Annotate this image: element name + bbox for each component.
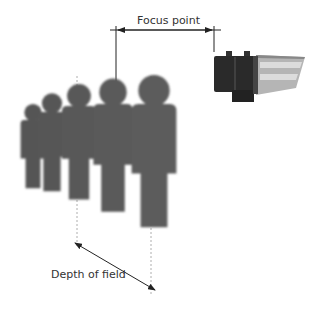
depth-of-field-arrow (75, 243, 155, 290)
person-silhouette-icon (93, 79, 132, 212)
depth-of-field-diagram: Focus point Depth of field (0, 0, 318, 311)
person-silhouette-icon (62, 84, 96, 200)
person-silhouette-icon (132, 75, 177, 227)
diagram-canvas (0, 0, 318, 311)
depth-of-field-label: Depth of field (51, 268, 126, 281)
people-group (21, 75, 177, 227)
focus-point-label: Focus point (137, 14, 200, 27)
cctv-camera-icon (214, 51, 305, 102)
focus-point-dimension (110, 26, 221, 84)
